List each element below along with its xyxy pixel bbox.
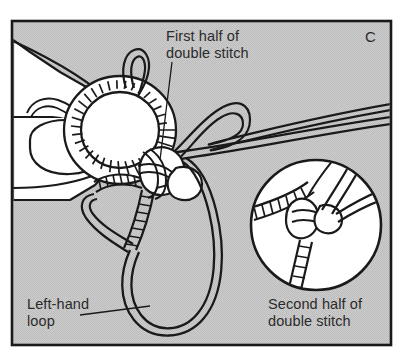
- illustration-figure: First half of double stitch Left-hand lo…: [0, 0, 406, 355]
- panel-letter-label: C: [365, 28, 376, 45]
- label-left-hand-loop: Left-hand loop: [27, 296, 89, 330]
- label-second-half-of-double-stitch: Second half of double stitch: [268, 296, 362, 330]
- label-first-half-of-double-stitch: First half of double stitch: [166, 28, 249, 62]
